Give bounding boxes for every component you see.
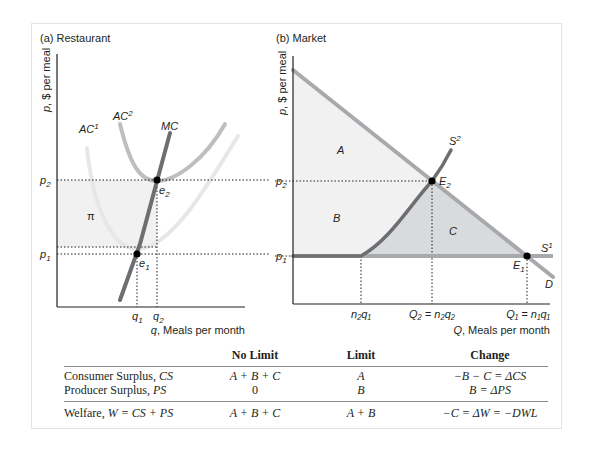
row-ps-label: Producer Surplus, PS [64,383,166,398]
row-cs-no-limit: A + B + C [215,369,295,384]
row-cs-change: −B − C = ΔCS [430,369,550,384]
row-cs-limit: A [331,369,391,384]
row-welfare-no-limit: A + B + C [215,406,295,421]
row-ps-change: B = ΔPS [430,383,550,398]
row-welfare-label: Welfare, W = CS + PS [64,406,173,421]
table-rule-bottom [64,401,548,402]
row-ps-limit: B [331,383,391,398]
row-ps-no-limit: 0 [215,383,295,398]
header-change: Change [450,348,530,363]
row-cs-label: Consumer Surplus, CS [64,369,173,384]
surplus-table: No Limit Limit Change Consumer Surplus, … [0,0,589,452]
table-rule-top [64,366,548,367]
header-no-limit: No Limit [215,348,295,363]
row-welfare-change: −C = ΔW = −DWL [420,406,560,421]
row-welfare-limit: A + B [331,406,391,421]
header-limit: Limit [331,348,391,363]
